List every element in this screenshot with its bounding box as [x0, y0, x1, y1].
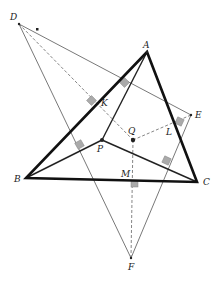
label-D: D	[9, 12, 17, 22]
line-EF	[131, 115, 191, 258]
label-C: C	[203, 177, 210, 187]
segment-PA	[102, 52, 147, 140]
label-L: L	[165, 127, 172, 137]
right-angle-marker-K	[87, 96, 97, 106]
right-angle-marker-M	[131, 181, 138, 187]
label-P: P	[96, 144, 104, 154]
right-angle-marker-P	[75, 140, 85, 150]
point-Q	[131, 138, 135, 142]
point-D	[18, 23, 20, 25]
dashed-QF	[131, 140, 133, 258]
point-A	[146, 51, 148, 53]
right-angle-marker-C	[162, 156, 171, 165]
label-B: B	[13, 174, 21, 184]
label-K: K	[100, 98, 109, 108]
label-A: A	[142, 40, 150, 50]
label-Q: Q	[128, 126, 136, 136]
geometry-diagram: A B C D E F P Q K L M	[0, 0, 221, 282]
point-E	[190, 114, 192, 116]
line-DF	[19, 24, 131, 258]
label-M: M	[120, 169, 131, 179]
label-F: F	[127, 262, 135, 272]
marker-on-DE	[36, 28, 39, 31]
dashed-DQ	[19, 24, 133, 140]
point-P	[100, 138, 104, 142]
label-E: E	[194, 110, 202, 120]
point-F	[130, 257, 132, 259]
segment-PB	[26, 140, 102, 178]
